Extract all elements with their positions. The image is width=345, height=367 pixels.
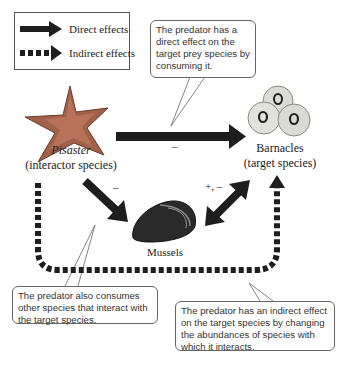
callout-indirect-effect: The predator has an indirect effect on t… (175, 301, 335, 351)
direct-arrow-pisaster-mussels (85, 181, 128, 222)
barnacles-illustration (248, 86, 310, 136)
callout-direct-effect: The predator has a direct effect on the … (150, 20, 256, 78)
sign-pisaster-barnacles: – (172, 140, 178, 152)
barnacles-label: Barnacles (target species) (230, 141, 330, 171)
direct-arrow-pisaster-barnacles (116, 124, 246, 149)
callout-pointer-other (65, 225, 95, 286)
barnacles-name: Barnacles (230, 141, 330, 156)
barnacles-role: (target species) (230, 156, 330, 171)
callout-other-species: The predator also consumes other species… (12, 286, 158, 324)
callout-pointer-indirect (249, 283, 273, 301)
sign-mussels-barnacles: +, – (205, 180, 222, 192)
mussel-illustration (133, 201, 196, 242)
mussels-label: Mussels (130, 246, 200, 258)
callout-pointer-direct (171, 77, 205, 126)
sign-pisaster-mussels: – (113, 181, 119, 193)
pisaster-role: (interactor species) (12, 158, 130, 173)
pisaster-label: Pisaster (interactor species) (12, 143, 130, 173)
pisaster-name: Pisaster (12, 143, 130, 158)
